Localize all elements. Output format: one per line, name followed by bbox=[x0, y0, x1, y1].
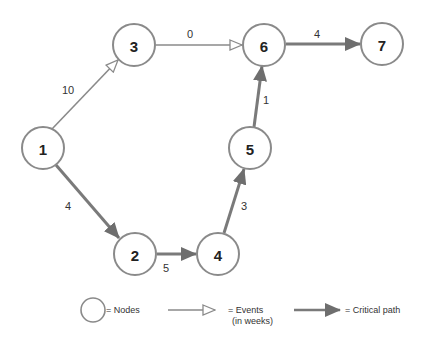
legend-events-unit: (in weeks) bbox=[232, 316, 273, 326]
edge-weight: 1 bbox=[263, 94, 269, 106]
edge-6-7: 4 bbox=[286, 28, 360, 44]
edge-weight: 4 bbox=[65, 200, 71, 212]
legend: = Nodes = Events (in weeks) = Critical p… bbox=[81, 298, 400, 326]
edge-2-4: 5 bbox=[157, 254, 196, 274]
node-6: 6 bbox=[243, 24, 285, 66]
node-legend-icon bbox=[81, 298, 105, 322]
node-label: 4 bbox=[214, 247, 223, 264]
node-2: 2 bbox=[114, 233, 156, 275]
edge-1-3: 10 bbox=[52, 60, 118, 129]
legend-nodes-label: = Nodes bbox=[106, 305, 140, 315]
legend-critical-label: = Critical path bbox=[345, 305, 400, 315]
legend-events-label: = Events bbox=[228, 305, 264, 315]
node-label: 1 bbox=[39, 141, 47, 158]
node-label: 5 bbox=[246, 141, 254, 158]
edge-weight: 0 bbox=[187, 28, 193, 40]
node-3: 3 bbox=[113, 24, 155, 66]
node-1: 1 bbox=[22, 127, 64, 169]
edge-weight: 4 bbox=[314, 28, 320, 40]
edge-weight: 3 bbox=[241, 200, 247, 212]
legend-events: = Events (in weeks) bbox=[168, 305, 273, 326]
node-5: 5 bbox=[229, 127, 271, 169]
edge-1-2: 4 bbox=[56, 165, 119, 238]
edge-weight: 10 bbox=[62, 84, 74, 96]
node-label: 2 bbox=[131, 247, 139, 264]
legend-critical: = Critical path bbox=[294, 305, 400, 315]
node-4: 4 bbox=[197, 233, 239, 275]
node-label: 3 bbox=[130, 38, 138, 55]
edge-4-5: 3 bbox=[224, 169, 247, 233]
node-7: 7 bbox=[361, 23, 403, 65]
node-label: 6 bbox=[260, 38, 268, 55]
node-label: 7 bbox=[378, 37, 386, 54]
pert-diagram: 10 0 4 5 3 1 4 1 2 3 4 5 bbox=[0, 0, 432, 348]
edge-5-6: 1 bbox=[254, 66, 269, 127]
edge-3-6: 0 bbox=[156, 28, 242, 45]
edge-weight: 5 bbox=[163, 262, 169, 274]
legend-nodes: = Nodes bbox=[81, 298, 140, 322]
